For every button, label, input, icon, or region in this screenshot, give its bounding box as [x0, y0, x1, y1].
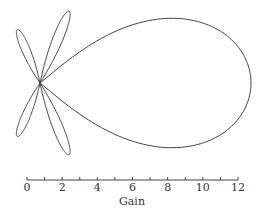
tick-label: 12	[231, 181, 245, 194]
lobe-4	[16, 30, 40, 84]
lobe-5	[16, 83, 40, 137]
gain-scale-bar	[27, 177, 238, 180]
tick-label: 10	[196, 181, 210, 194]
tick-label: 6	[129, 181, 136, 194]
tick-label: 2	[59, 181, 66, 194]
axis-title: Gain	[119, 195, 145, 208]
tick-label: 8	[164, 181, 171, 194]
pattern-lobes	[16, 11, 251, 155]
tick-label: 0	[24, 181, 31, 194]
tick-label: 4	[94, 181, 101, 194]
lobe-2	[40, 11, 70, 83]
lobe-1	[40, 18, 251, 147]
lobe-3	[40, 83, 70, 155]
